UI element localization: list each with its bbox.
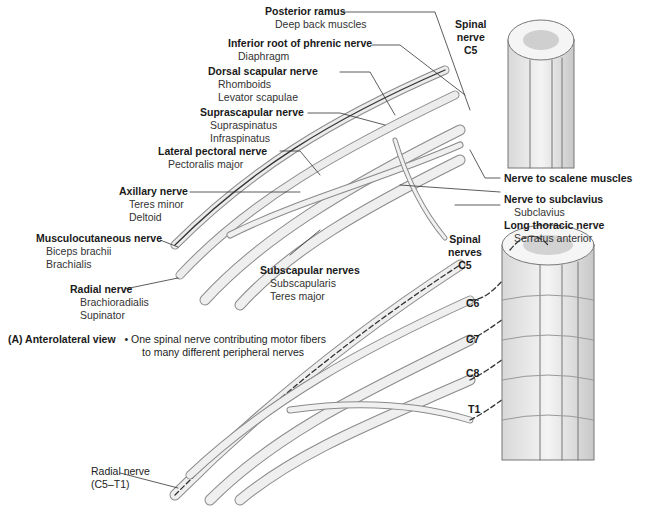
label-axillary: Axillary nerve Teres minor Deltoid [119, 185, 188, 224]
figure-caption: (A) Anterolateral view • One spinal nerv… [8, 333, 326, 359]
label-c8: C8 [466, 367, 479, 380]
label-suprascapular: Suprascapular nerve Supraspinatus Infras… [200, 106, 304, 145]
view-label: (A) Anterolateral view [8, 333, 116, 345]
label-t1: T1 [468, 403, 480, 416]
label-radial: Radial nerve Brachioradialis Supinator [70, 283, 149, 322]
label-inferior-root-phrenic: Inferior root of phrenic nerve Diaphragm [228, 37, 372, 63]
label-subscapular: Subscapular nerves Subscapularis Teres m… [260, 264, 360, 303]
label-dorsal-scapular: Dorsal scapular nerve Rhomboids Levator … [208, 65, 318, 104]
label-spinal-nerves: Spinal nerves C5 [448, 233, 482, 272]
label-spinal-nerve-c5: Spinal nerve C5 [455, 18, 487, 57]
label-long-thoracic: Long thoracic nerve Serratus anterior [504, 219, 604, 245]
top-spinal-cord [508, 20, 574, 168]
label-posterior-ramus: Posterior ramus Deep back muscles [265, 5, 367, 31]
label-nerve-to-subclavius: Nerve to subclavius Subclavius [504, 193, 603, 219]
bottom-spinal-cord [502, 225, 594, 460]
label-musculocutaneous: Musculocutaneous nerve Biceps brachii Br… [36, 232, 162, 271]
label-radial-nerve-c5-t1: Radial nerve (C5–T1) [91, 465, 150, 491]
label-nerve-to-scalene: Nerve to scalene muscles [504, 172, 632, 185]
label-c7: C7 [466, 333, 479, 346]
label-c6: C6 [466, 297, 479, 310]
label-lateral-pectoral: Lateral pectoral nerve Pectoralis major [158, 145, 267, 171]
